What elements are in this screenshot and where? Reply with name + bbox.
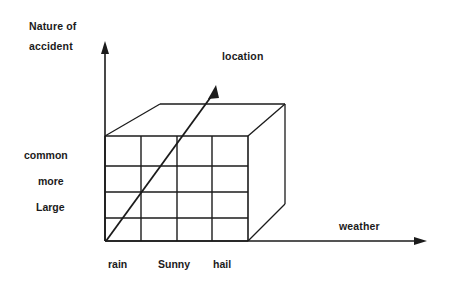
cube-edge-top-left-diagonal (105, 104, 160, 136)
x-axis-tick-sunny: Sunny (158, 258, 190, 270)
cube-right-face (248, 104, 285, 241)
diagram-canvas: Nature of accident common more Large wea… (0, 0, 449, 288)
y-axis-scale-labels: common more Large (24, 148, 100, 216)
z-axis-line (106, 94, 213, 241)
cube-grid-lines (105, 136, 248, 241)
x-axis-tick-hail: hail (213, 258, 231, 270)
y-axis-title: Nature of accident (29, 19, 107, 54)
y-axis-value-more: more (38, 174, 100, 189)
arrow-right-icon (414, 237, 427, 245)
x-axis-title: weather (339, 219, 380, 234)
arrow-diagonal-up-right-icon (208, 85, 219, 99)
y-axis-title-line-2: accident (29, 39, 107, 54)
y-axis-title-line-1: Nature of (29, 19, 107, 34)
z-axis-title: location (222, 49, 263, 64)
cube-edge-top-right-diagonal (248, 104, 285, 136)
x-axis-tick-rain: rain (108, 258, 127, 270)
y-axis-value-large: Large (36, 200, 100, 215)
y-axis-value-common: common (24, 148, 100, 163)
cube-edge-right-bottom-diagonal (248, 204, 285, 241)
